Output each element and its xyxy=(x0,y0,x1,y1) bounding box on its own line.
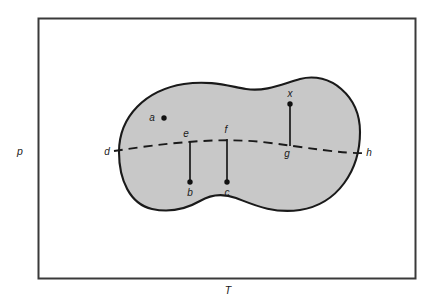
axis-label-t: T xyxy=(225,284,233,296)
point-label-a: a xyxy=(149,112,155,123)
point-label-b: b xyxy=(187,187,193,198)
point-dot-a xyxy=(161,115,166,120)
point-dot-c xyxy=(224,179,229,184)
axis-label-p: p xyxy=(16,145,23,157)
point-label-h: h xyxy=(366,147,372,158)
point-dot-b xyxy=(187,179,192,184)
point-label-g: g xyxy=(284,148,290,159)
point-label-e: e xyxy=(183,128,189,139)
point-label-d: d xyxy=(104,146,110,157)
point-dot-x xyxy=(287,101,292,106)
point-label-x: x xyxy=(287,88,294,99)
diagram-canvas: a b c d e f g h x p T xyxy=(0,0,440,302)
shaded-region xyxy=(119,78,360,211)
figure-container: a b c d e f g h x p T xyxy=(0,0,440,302)
point-label-c: c xyxy=(225,187,230,198)
